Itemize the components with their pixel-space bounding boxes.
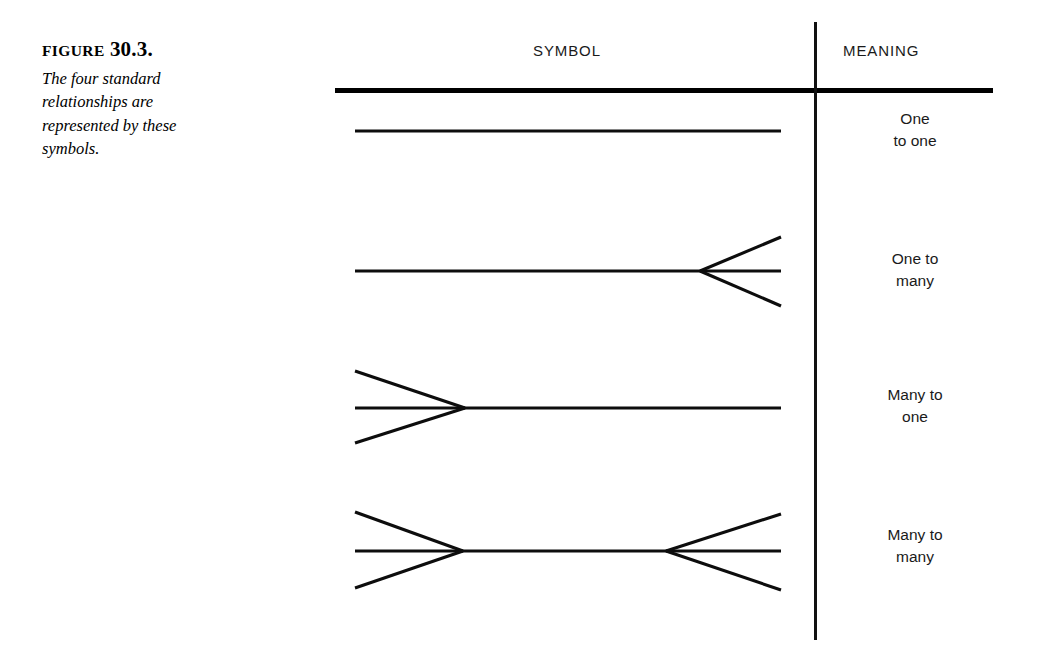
meaning-line-2: to one <box>817 130 1013 152</box>
symbol-many-to-one <box>355 371 781 443</box>
meaning-line-1: Many to <box>887 526 942 543</box>
meaning-line-2: many <box>817 270 1013 292</box>
meaning-label-many-to-many: Many to many <box>817 524 1013 568</box>
meaning-line-2: one <box>817 406 1013 428</box>
meaning-line-1: One to <box>892 250 939 267</box>
meaning-line-1: Many to <box>887 386 942 403</box>
meaning-line-1: One <box>900 110 929 127</box>
meaning-line-2: many <box>817 546 1013 568</box>
symbol-one-to-many <box>355 237 781 306</box>
meaning-label-many-to-one: Many to one <box>817 384 1013 428</box>
meaning-label-one-to-one: One to one <box>817 108 1013 152</box>
symbol-many-to-many <box>355 512 781 590</box>
meaning-label-one-to-many: One to many <box>817 248 1013 292</box>
